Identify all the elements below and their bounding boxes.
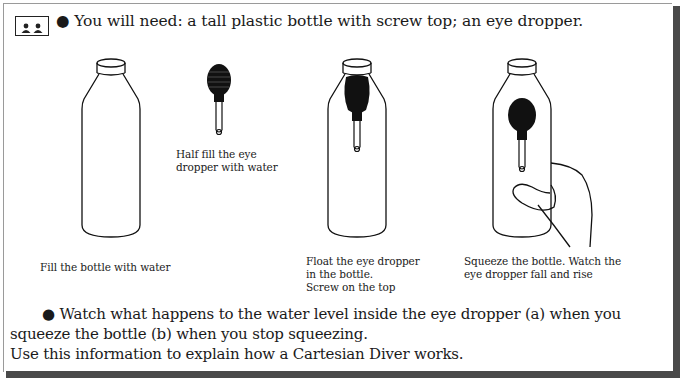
eye-dropper-illustration <box>205 62 235 142</box>
step-1-caption: Fill the bottle with water <box>40 261 170 274</box>
step-2-caption: Half fill the eye dropper with water <box>176 148 278 174</box>
empty-bottle-illustration <box>80 55 142 245</box>
instructions-line-1: ● Watch what happens to the water level … <box>42 304 621 324</box>
pair-work-icon <box>15 16 49 36</box>
materials-text: You will need: a tall plastic bottle wit… <box>74 12 583 30</box>
panel-shadow-bottom <box>6 371 680 378</box>
people-icon <box>16 17 48 35</box>
instructions-block: ● Watch what happens to the water level … <box>42 304 621 364</box>
step-3-caption: Float the eye dropper in the bottle. Scr… <box>306 255 420 294</box>
bottle-with-dropper-illustration <box>326 55 388 245</box>
instructions-line-3: Use this information to explain how a Ca… <box>10 344 621 364</box>
materials-heading: ● You will need: a tall plastic bottle w… <box>56 12 583 30</box>
panel-shadow-right <box>673 6 680 378</box>
step-4-caption: Squeeze the bottle. Watch the eye droppe… <box>464 255 621 281</box>
bullet: ● <box>56 12 69 30</box>
bullet: ● <box>42 305 55 323</box>
instructions-line-2: squeeze the bottle (b) when you stop squ… <box>10 324 621 344</box>
hand-squeezing-bottle-illustration <box>482 55 597 250</box>
